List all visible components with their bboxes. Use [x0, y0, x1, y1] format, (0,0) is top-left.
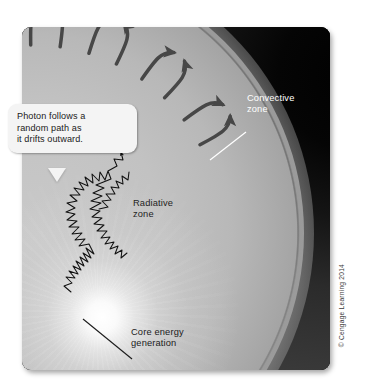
photon-callout: Photon follows a random path as it drift…	[8, 104, 137, 153]
callout-tail	[48, 168, 66, 182]
label-core-energy-generation: Core energy generation	[131, 327, 184, 350]
core-energy-line-2: generation	[131, 338, 184, 349]
callout-line-2: random path as	[17, 123, 129, 135]
core-energy-line-1: Core energy	[131, 327, 184, 338]
copyright-credit: © Cengage Learning 2014	[338, 264, 345, 347]
figure-root: Photon follows a random path as it drift…	[0, 0, 368, 389]
stellar-interior-panel	[22, 27, 330, 370]
label-radiative-zone: Radiative zone	[133, 198, 173, 221]
radiative-zone-line-1: Radiative	[133, 198, 173, 209]
label-convective-zone: Convective zone	[247, 93, 295, 116]
convective-zone-line-1: Convective	[247, 93, 295, 104]
core-leader-line	[83, 319, 132, 359]
callout-line-1: Photon follows a	[17, 111, 129, 123]
convective-zone-line-2: zone	[247, 104, 295, 115]
callout-line-3: it drifts outward.	[17, 134, 129, 146]
radiative-zone-line-2: zone	[133, 209, 173, 220]
leader-lines-layer	[22, 27, 330, 370]
convective-leader-line	[210, 132, 246, 160]
